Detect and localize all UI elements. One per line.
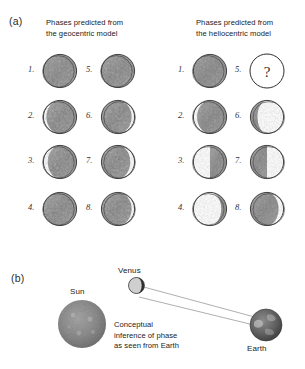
phase-disc-gibbous: [41, 98, 79, 136]
phase-number-label: 3.: [28, 155, 34, 165]
caption-line-2: inference of phase: [114, 331, 179, 342]
svg-text:?: ?: [264, 64, 271, 80]
phase-disc-half: [191, 143, 229, 181]
heliocentric-heading-line2: the heliocentric model: [196, 29, 273, 40]
phase-number-label: 8.: [86, 202, 92, 212]
phase-disc-crescent: [248, 98, 286, 136]
phase-number-label: 6.: [235, 110, 241, 120]
phase-number-label: 6.: [86, 110, 92, 120]
phase-disc-gibbous: [191, 98, 229, 136]
phase-disc-crescent: [191, 190, 229, 228]
venus-label: Venus: [118, 266, 141, 275]
earth-label: Earth: [247, 344, 267, 353]
conceptual-inference-caption: Conceptual inference of phase as seen fr…: [114, 320, 179, 352]
geocentric-heading-line1: Phases predicted from: [46, 18, 123, 29]
caption-line-1: Conceptual: [114, 320, 179, 331]
phase-disc-full: [191, 52, 229, 90]
sun-sphere: [57, 299, 107, 349]
phase-number-label: 2.: [178, 110, 184, 120]
phase-disc-gibbous: [99, 143, 137, 181]
phase-number-label: 7.: [235, 155, 241, 165]
phase-number-label: 1.: [28, 64, 34, 74]
sun-label: Sun: [70, 287, 85, 296]
venus-sphere: [128, 277, 145, 294]
phase-number-label: 1.: [178, 64, 184, 74]
phase-disc-full: [41, 52, 79, 90]
phase-number-label: 5.: [86, 64, 92, 74]
phase-disc-full: [41, 190, 79, 228]
heliocentric-column-heading: Phases predicted from the heliocentric m…: [196, 18, 273, 39]
caption-line-3: as seen from Earth: [114, 341, 179, 352]
earth-sphere: [249, 308, 283, 342]
phase-disc-half: [248, 143, 286, 181]
panel-a-label: (a): [9, 15, 22, 27]
geocentric-column-heading: Phases predicted from the geocentric mod…: [46, 18, 123, 39]
phase-number-label: 7.: [86, 155, 92, 165]
phase-disc-question: ?: [248, 52, 286, 90]
phase-number-label: 4.: [178, 202, 184, 212]
phase-number-label: 4.: [28, 202, 34, 212]
phase-disc-gibbous: [99, 98, 137, 136]
phase-number-label: 3.: [178, 155, 184, 165]
phase-number-label: 2.: [28, 110, 34, 120]
phase-number-label: 5.: [235, 64, 241, 74]
geocentric-heading-line2: the geocentric model: [46, 29, 123, 40]
phase-disc-gibbous: [248, 190, 286, 228]
heliocentric-heading-line1: Phases predicted from: [196, 18, 273, 29]
phase-disc-gibbous: [41, 143, 79, 181]
phase-number-label: 8.: [235, 202, 241, 212]
phase-disc-gibbous: [99, 190, 137, 228]
figure-venus-phases: (a) Phases predicted from the geocentric…: [0, 0, 305, 369]
phase-disc-full: [99, 52, 137, 90]
